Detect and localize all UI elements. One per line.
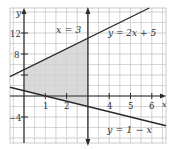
y-axis-label: y [15, 8, 22, 18]
label-y-equals-2x-plus-5: y = 2x + 5 [107, 28, 156, 38]
graph-figure: y x 12 8 −4 1 2 4 5 6 x = 3 y = 2x + 5 y… [0, 0, 176, 149]
tick-label-x5: 5 [128, 101, 133, 111]
tick-label-x2: 2 [64, 101, 69, 111]
label-y-equals-1-minus-x: y = 1 − x [106, 124, 152, 135]
arrow-down-icon [85, 139, 90, 146]
tick-label-x6: 6 [149, 101, 154, 111]
y-axis-arrow-icon [22, 8, 27, 14]
x-axis-label: x [162, 100, 167, 109]
tick-label-8: 8 [14, 50, 19, 60]
x-axis-arrow-icon [160, 94, 166, 99]
label-x-equals-3: x = 3 [56, 24, 81, 35]
tick-label-neg4: −4 [9, 113, 22, 123]
tick-label-12: 12 [10, 29, 21, 39]
tick-label-x1: 1 [43, 101, 48, 111]
tick-label-x4: 4 [107, 101, 112, 111]
